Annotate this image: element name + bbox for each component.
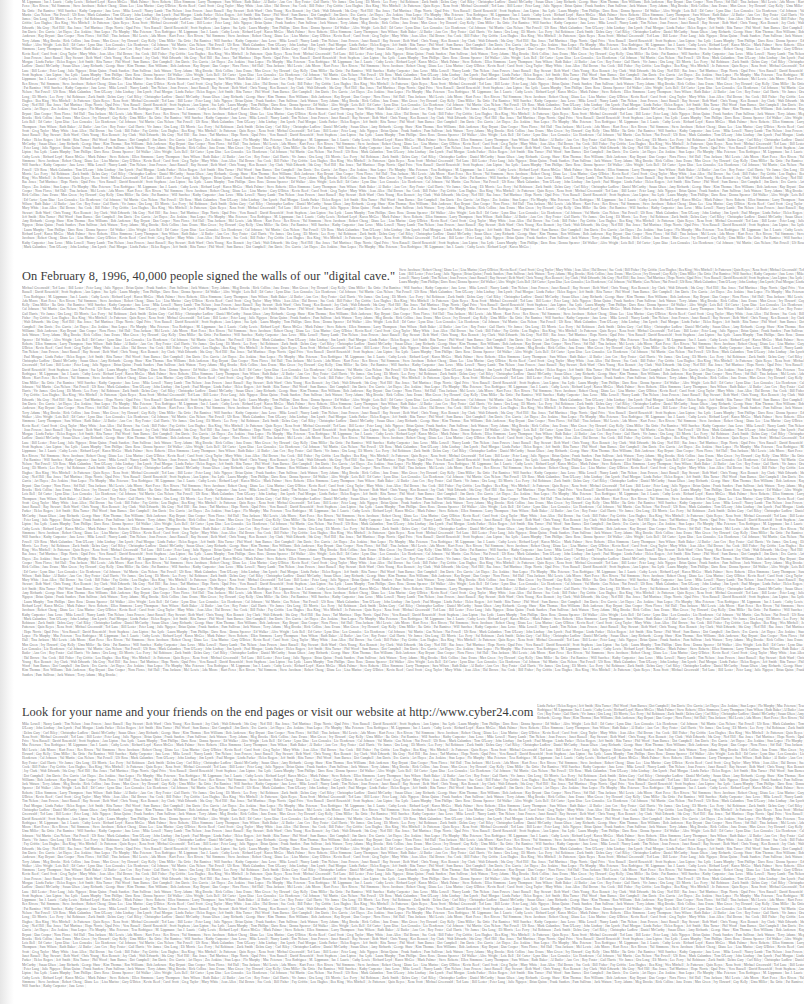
name-wall-headline-tail-1: Steve Jacobson | Robert Cheng | Diane Le… bbox=[399, 268, 804, 284]
signatory-name: Lois Bell bbox=[621, 241, 635, 245]
signatory-name: Quin Reyes bbox=[634, 668, 652, 672]
signatory-name: Bill Fisher bbox=[274, 980, 290, 984]
signatory-name: Lynn Diaz bbox=[653, 241, 669, 245]
signatory-name: Cal Johnson bbox=[716, 241, 734, 245]
signatory-name: Linda Parker bbox=[130, 245, 149, 249]
signatory-name: Ike Ortiz bbox=[770, 980, 784, 984]
signatory-name: Fay Griffin bbox=[536, 668, 553, 672]
signatory-name: Len Gonzales bbox=[671, 241, 691, 245]
signatory-name: Ivy Howard bbox=[714, 980, 732, 984]
signatory-name: Paul Morgan bbox=[109, 245, 128, 249]
signatory-name: Hal Brown bbox=[239, 980, 256, 984]
signatory-name: Tess Rodriguez bbox=[400, 245, 422, 249]
name-wall-headline-tail-2: Linda Parker | Helen Rogers | Jeff Smith… bbox=[537, 704, 804, 720]
signatory-name: Ada Moore bbox=[202, 668, 219, 672]
headline-digital-cave: On February 8, 1996, 40,000 people signe… bbox=[22, 268, 399, 284]
signatory-name: Fay Griffin bbox=[292, 980, 309, 984]
signatory-name: Kevin Reed bbox=[386, 668, 404, 672]
signatory-name: Bill Lester bbox=[718, 668, 734, 672]
signatory-name: Stan Lopez bbox=[340, 245, 357, 249]
signatory-name: Tina Jackson bbox=[163, 668, 182, 672]
name-wall-top: M. Lippmann | Ian J. Laurie | Cathy Lewi… bbox=[22, 0, 804, 266]
signatory-name: Dot Campbell bbox=[246, 245, 267, 249]
signatory-name: Mary White bbox=[445, 668, 463, 672]
signatory-name: Sue Cook bbox=[257, 980, 272, 984]
signatory-name: Jeff Smith bbox=[173, 245, 188, 249]
document-page: M. Lippmann | Ian J. Laurie | Cathy Lewi… bbox=[22, 0, 804, 1004]
signatory-name: Jo Patterson bbox=[613, 668, 631, 672]
signatory-name: Yul Simmons bbox=[258, 668, 278, 672]
headline-website-invite: Look for your name and your friends on t… bbox=[22, 704, 537, 720]
signatory-name: Nora Flores bbox=[128, 668, 146, 672]
signatory-name: Bea King bbox=[331, 980, 345, 984]
signatory-name: Julie Nguyen bbox=[755, 668, 775, 672]
signatory-name: Zoe Jenkins bbox=[321, 245, 339, 249]
signatory-name: Rita Turner bbox=[190, 245, 207, 249]
signatory-name: Tom O'Leary bbox=[49, 245, 68, 249]
signatory-name: Wes Mitchell bbox=[347, 980, 367, 984]
signatory-name: Bill Fisher bbox=[518, 668, 534, 672]
signatory-name: Brian Quinn bbox=[776, 668, 795, 672]
signatory-name: Kevin Reed bbox=[144, 980, 162, 984]
signatory-name: Jean Allen bbox=[221, 980, 237, 984]
signatory-name: Jean Allen bbox=[465, 668, 481, 672]
signatory-name: Greg Taylor bbox=[182, 980, 200, 984]
signatory-name: Michael Greenwald bbox=[426, 980, 454, 984]
signatory-name: Diane Lee bbox=[84, 980, 100, 984]
signatory-name: Sue Cook bbox=[501, 668, 516, 672]
signatory-name: Val Martin bbox=[736, 241, 752, 245]
signatory-name: Ted Lane bbox=[456, 980, 470, 984]
signatory-name: John Lindsay bbox=[70, 245, 90, 249]
signatory-name: Meg Brooks bbox=[635, 980, 653, 984]
signatory-name: M. Lippmann bbox=[424, 245, 444, 249]
signatory-name: Ulf Ross bbox=[792, 241, 804, 245]
signatory-name: Helen Rogers bbox=[151, 245, 171, 249]
signatory-name: Hal Brown bbox=[483, 668, 500, 672]
signatory-name: Xena Scott bbox=[653, 668, 670, 672]
name-wall-middle: Michael Greenwald | Ted Lane | Bill Lest… bbox=[22, 286, 804, 702]
signatory-name: Quin Reyes bbox=[388, 980, 405, 984]
signatory-name: Mark Galambos bbox=[24, 245, 47, 249]
signatory-name: Ed Walker bbox=[583, 241, 599, 245]
signatory-name: Carol Scott bbox=[406, 668, 423, 672]
signatory-name: Michael Greenwald bbox=[672, 668, 700, 672]
signatory-name: Jane Lowe bbox=[69, 984, 85, 988]
signatory-name: Xena Scott bbox=[407, 980, 424, 984]
signatory-name: Gus Nelson bbox=[754, 241, 771, 245]
signatory-name: Pam Sullivan bbox=[36, 673, 56, 677]
signatory-name: Diane Lee bbox=[327, 668, 343, 672]
signatory-name: Jim Davis bbox=[268, 245, 283, 249]
signatory-name: Jo Patterson bbox=[368, 980, 386, 984]
signatory-name: Jack Watson bbox=[594, 980, 612, 984]
signatory-name: Liz Henderson bbox=[693, 241, 715, 245]
signatory-name: Max Green bbox=[695, 980, 712, 984]
signatory-name: Steve Jacobson bbox=[280, 668, 302, 672]
signatory-name: Rex Rivera bbox=[239, 668, 256, 672]
signatory-name: Terry Adams bbox=[77, 673, 96, 677]
signatory-name: Uma Miller bbox=[751, 980, 768, 984]
signatory-name: Meg Brooks bbox=[98, 673, 116, 677]
signatory-name: Greg Taylor bbox=[425, 668, 443, 672]
signatory-name: Kurt Perez bbox=[221, 668, 237, 672]
signatory-name: Mel Lewis bbox=[184, 668, 200, 672]
signatory-name: Art Hayes bbox=[304, 245, 319, 249]
signatory-name: Mae Peterson bbox=[378, 245, 398, 249]
signatory-name: Gary O'Brien bbox=[122, 980, 142, 984]
signatory-name: Flo Murphy bbox=[359, 245, 377, 249]
signatory-name: Sam Barnes bbox=[226, 245, 244, 249]
signatory-name: Phil Wood bbox=[209, 245, 225, 249]
signatory-name: Lou Hughes bbox=[555, 668, 573, 672]
signatory-name: Carol Scott bbox=[163, 980, 180, 984]
signatory-name: June Evans bbox=[676, 980, 693, 984]
signatory-name: Kathy Carpenter bbox=[43, 984, 67, 988]
signatory-name: Nat Powell bbox=[773, 241, 790, 245]
signatory-name: Robert Cheng bbox=[304, 668, 325, 672]
signatory-name: Bea King bbox=[575, 668, 590, 672]
signatory-name: Peter Lang bbox=[490, 980, 506, 984]
signatory-name: Mary White bbox=[202, 980, 220, 984]
signatory-name: Jim Lynch bbox=[92, 245, 108, 249]
signatory-name: Jack Watson bbox=[57, 673, 75, 677]
page-edge-shadow bbox=[0, 0, 14, 1004]
signatory-name: Karen McGee bbox=[510, 245, 531, 249]
signatory-name: Frank Sanders bbox=[550, 980, 571, 984]
